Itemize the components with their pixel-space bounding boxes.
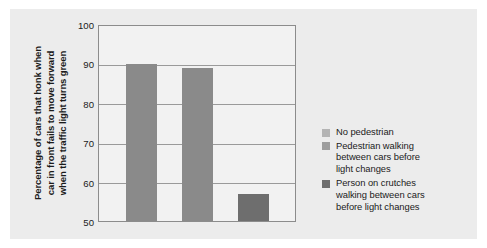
legend-swatch-icon-no-pedestrian	[322, 129, 330, 137]
y-tick-70: 70	[83, 138, 94, 149]
y-tick-100: 100	[78, 20, 94, 31]
y-axis-tick-labels: 100 90 80 70 60 50	[66, 25, 94, 222]
y-tick-80: 80	[83, 98, 94, 109]
legend-swatch-icon-person-on-crutches	[322, 180, 330, 188]
plot-area	[98, 25, 296, 222]
bar-chart-figure: Percentage of cars that honk when car in…	[0, 0, 487, 248]
legend-item-person-on-crutches: Person on crutches walking between cars …	[322, 177, 472, 212]
y-tick-50: 50	[83, 217, 94, 228]
bar-person-on-crutches	[238, 194, 269, 221]
legend-item-pedestrian-walking: Pedestrian walking between cars before l…	[322, 140, 472, 175]
y-tick-90: 90	[83, 59, 94, 70]
legend-swatch-icon-pedestrian-walking	[322, 142, 330, 150]
legend-label-no-pedestrian: No pedestrian	[336, 126, 394, 138]
bar-no-pedestrian	[126, 64, 157, 221]
legend-label-person-on-crutches: Person on crutches walking between cars …	[336, 177, 425, 212]
legend: No pedestrian Pedestrian walking between…	[322, 126, 472, 214]
legend-item-no-pedestrian: No pedestrian	[322, 126, 472, 138]
y-tick-60: 60	[83, 177, 94, 188]
bar-pedestrian-walking	[182, 68, 213, 221]
legend-label-pedestrian-walking: Pedestrian walking between cars before l…	[336, 140, 420, 175]
y-axis-title: Percentage of cars that honk when car in…	[32, 23, 70, 223]
